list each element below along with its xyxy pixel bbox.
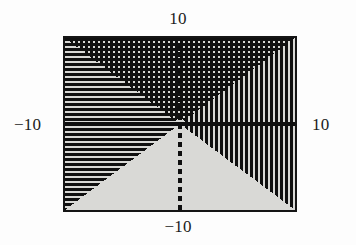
axis-label-bottom: −10 (0, 218, 356, 235)
axis-label-top: 10 (0, 10, 356, 27)
figure-panel: 10 −10 10 −10 (0, 0, 356, 245)
axis-label-right: 10 (312, 116, 329, 133)
axis-label-left: −10 (14, 116, 41, 133)
region-plot-canvas (65, 38, 295, 210)
plot-frame (63, 36, 297, 212)
